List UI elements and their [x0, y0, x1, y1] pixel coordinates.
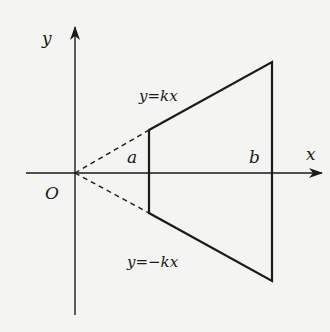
trapezoid-diagram: y x O a b y=kx y=−kx — [0, 0, 330, 332]
y-axis-label: y — [41, 28, 52, 48]
lower-line-label: y=−kx — [126, 253, 179, 271]
x-axis-label: x — [306, 144, 316, 164]
dashed-line-upper — [75, 130, 149, 173]
point-a-label: a — [127, 147, 137, 167]
dashed-line-lower — [75, 173, 149, 213]
diagram-canvas: y x O a b y=kx y=−kx — [0, 0, 330, 332]
origin-label: O — [45, 183, 59, 203]
point-b-label: b — [249, 147, 260, 167]
upper-line-label: y=kx — [138, 87, 178, 105]
